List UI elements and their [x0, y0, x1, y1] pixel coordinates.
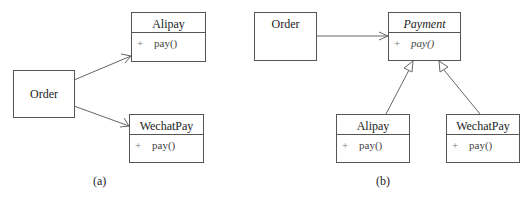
generalization-arrow-wechatpay-payment: [439, 61, 480, 114]
class-name: Alipay: [132, 17, 205, 32]
association-arrow-order-payment: [316, 32, 388, 40]
visibility-public-icon: +: [137, 37, 143, 49]
class-order-a: Order: [13, 70, 75, 118]
visibility-public-icon: +: [135, 139, 141, 151]
class-name: Alipay: [337, 119, 409, 134]
class-name: Order: [14, 87, 74, 102]
method-pay: pay(): [154, 37, 177, 49]
method-pay: pay(): [359, 139, 382, 151]
class-name: WechatPay: [130, 119, 203, 134]
method-pay: pay(): [469, 139, 492, 151]
compartment-divider: [389, 32, 460, 33]
generalization-arrow-alipay-payment: [386, 61, 413, 114]
class-alipay-b: Alipay + pay(): [336, 114, 410, 163]
class-name: Order: [255, 17, 316, 32]
class-alipay-a: Alipay + pay(): [131, 12, 206, 62]
class-wechatpay-b: WechatPay + pay(): [446, 114, 520, 163]
visibility-public-icon: +: [342, 139, 348, 151]
visibility-public-icon: +: [452, 139, 458, 151]
association-arrow-order-alipay: [74, 54, 131, 80]
abstract-class-name: Payment: [389, 17, 460, 32]
compartment-divider: [130, 134, 203, 135]
caption-a: (a): [93, 174, 106, 189]
compartment-divider: [132, 32, 205, 33]
class-name: WechatPay: [447, 119, 519, 134]
compartment-divider: [337, 134, 409, 135]
method-pay: pay(): [152, 139, 175, 151]
abstract-method-pay: pay(): [411, 37, 434, 49]
visibility-public-icon: +: [394, 37, 400, 49]
class-order-b: Order: [254, 12, 317, 61]
association-arrow-order-wechatpay: [74, 106, 129, 127]
class-payment-b: Payment + pay(): [388, 12, 461, 61]
class-wechatpay-a: WechatPay + pay(): [129, 114, 204, 163]
compartment-divider: [447, 134, 519, 135]
caption-b: (b): [376, 174, 390, 189]
